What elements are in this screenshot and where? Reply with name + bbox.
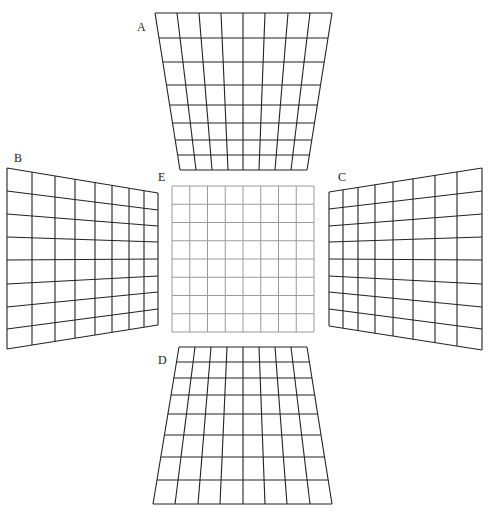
grid-line [291, 13, 310, 170]
grid-line [329, 237, 482, 242]
grid-line [329, 309, 482, 329]
grid-c-right-trapezoid [329, 168, 482, 350]
grid-d-bottom-trapezoid [153, 347, 332, 504]
label-b: B [14, 151, 22, 165]
grid-line [329, 292, 482, 307]
grid-line [7, 214, 158, 226]
label-c: C [338, 170, 346, 184]
grid-line [7, 191, 158, 210]
grid-line [199, 13, 212, 170]
grid-line [7, 259, 158, 260]
grid-line [329, 191, 482, 209]
grid-a-top-trapezoid [155, 13, 332, 170]
grid-line [329, 259, 482, 260]
grid-line [329, 168, 482, 192]
label-a: A [137, 20, 146, 34]
grid-line [275, 13, 288, 170]
grid-line [7, 168, 158, 193]
grid-line [307, 13, 332, 170]
grid-line [259, 13, 265, 170]
grid-line [7, 276, 158, 284]
grid-e-reference-square [172, 186, 314, 332]
label-d: D [158, 353, 167, 367]
grid-line [221, 13, 228, 170]
grid-line [329, 214, 482, 226]
grid-b-left-trapezoid [7, 168, 158, 349]
grid-line [155, 13, 180, 170]
grid-diagram: A B E C D [0, 0, 491, 513]
grid-line [7, 325, 158, 349]
grid-line [7, 292, 158, 307]
grid-line [7, 309, 158, 329]
grid-line [7, 237, 158, 242]
grid-line [177, 13, 196, 170]
grid-line [329, 326, 482, 350]
grid-line [329, 276, 482, 284]
label-e: E [158, 170, 165, 184]
